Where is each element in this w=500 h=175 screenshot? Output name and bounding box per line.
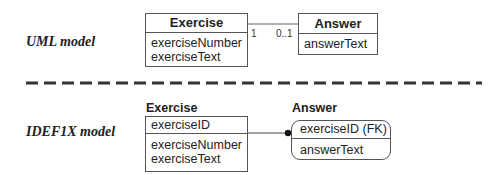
idef1x-exercise-key-attribute: exerciseID (146, 118, 247, 132)
uml-answer-class: Answer answerText (298, 13, 378, 55)
diagram-lines (0, 0, 500, 175)
idef1x-answer-key-attribute: exerciseID (FK) (292, 122, 390, 136)
idef1x-answer-entity-name: Answer (292, 101, 337, 115)
uml-exercise-attribute: exerciseText (146, 50, 247, 64)
idef1x-exercise-entity-name: Exercise (146, 101, 197, 115)
idef1x-model-label: IDEF1X model (26, 124, 115, 140)
key-area-divider (146, 133, 247, 134)
idef1x-exercise-attribute: exerciseText (146, 152, 247, 166)
idef1x-answer-attribute: answerText (292, 143, 390, 157)
uml-exercise-attribute: exerciseNumber (146, 36, 247, 50)
uml-model-label: UML model (26, 34, 95, 50)
idef1x-exercise-attribute: exerciseNumber (146, 138, 247, 152)
uml-exercise-class: Exercise exerciseNumber exerciseText (145, 13, 248, 67)
uml-multiplicity-exercise-end: 1 (251, 28, 257, 39)
key-area-divider (292, 138, 390, 139)
idef1x-exercise-entity: exerciseID exerciseNumber exerciseText (145, 116, 248, 172)
uml-answer-attribute: answerText (299, 37, 377, 51)
idef1x-answer-entity: exerciseID (FK) answerText (291, 120, 391, 160)
uml-multiplicity-answer-end: 0..1 (276, 28, 293, 39)
uml-exercise-class-name: Exercise (146, 14, 247, 33)
uml-answer-class-name: Answer (299, 14, 377, 34)
